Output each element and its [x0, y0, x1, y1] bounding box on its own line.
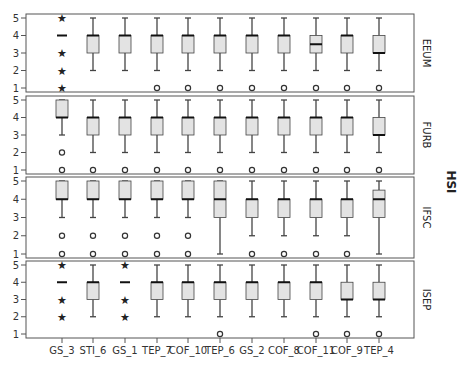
- panels-group: 12345EEUM★★★★12345FURB12345IFSC12345ISEP…: [13, 12, 432, 340]
- y-tick-label: 2: [13, 311, 19, 322]
- panel-label: ISEP: [421, 289, 432, 311]
- extreme-star-icon: ★: [57, 82, 67, 95]
- iqr-box: [278, 199, 290, 217]
- x-tick-label: GS_2: [239, 345, 264, 357]
- extreme-star-icon: ★: [57, 311, 67, 324]
- iqr-box: [246, 199, 258, 217]
- iqr-box: [341, 118, 353, 136]
- y-tick-label: 5: [13, 260, 19, 271]
- x-tick-label: GS_3: [49, 345, 74, 357]
- y-tick-label: 3: [13, 212, 19, 223]
- iqr-box: [87, 118, 99, 136]
- extreme-star-icon: ★: [120, 259, 130, 272]
- iqr-box: [310, 118, 322, 136]
- iqr-box: [56, 181, 68, 199]
- y-tick-label: 4: [13, 112, 19, 123]
- iqr-box: [182, 118, 194, 136]
- iqr-box: [151, 181, 163, 199]
- iqr-box: [373, 190, 385, 217]
- x-tick-label: COF_9: [331, 345, 363, 357]
- y-tick-label: 3: [13, 130, 19, 141]
- boxplot-chart: 12345EEUM★★★★12345FURB12345IFSC12345ISEP…: [0, 0, 462, 365]
- y-tick-label: 5: [13, 176, 19, 187]
- iqr-box: [246, 118, 258, 136]
- panel-ifsc: 12345IFSC: [13, 176, 432, 260]
- iqr-box: [278, 118, 290, 136]
- panel-eeum: 12345EEUM★★★★: [13, 12, 432, 95]
- panel-isep: 12345ISEP★★★★★★: [13, 259, 432, 340]
- x-axis: GS_3STI_6GS_1TEP_7COF_10TEP_6GS_2COF_8CO…: [49, 338, 394, 357]
- y-tick-label: 2: [13, 65, 19, 76]
- iqr-box: [341, 36, 353, 54]
- panel-label: IFSC: [421, 207, 432, 229]
- iqr-box: [214, 36, 226, 54]
- iqr-box: [119, 181, 131, 199]
- iqr-box: [341, 282, 353, 299]
- iqr-box: [87, 282, 99, 299]
- y-tick-label: 1: [13, 83, 19, 94]
- iqr-box: [278, 282, 290, 299]
- y-tick-label: 4: [13, 277, 19, 288]
- extreme-star-icon: ★: [57, 259, 67, 272]
- iqr-box: [310, 199, 322, 217]
- extreme-star-icon: ★: [120, 294, 130, 307]
- y-tick-label: 1: [13, 165, 19, 176]
- y-tick-label: 3: [13, 48, 19, 59]
- panel-label: EEUM: [421, 39, 432, 68]
- x-tick-label: COF_10: [169, 345, 207, 357]
- iqr-box: [214, 282, 226, 299]
- iqr-box: [278, 36, 290, 54]
- iqr-box: [87, 181, 99, 199]
- iqr-box: [373, 36, 385, 54]
- iqr-box: [214, 118, 226, 136]
- iqr-box: [182, 282, 194, 299]
- x-tick-label: TEP_6: [204, 345, 235, 357]
- x-tick-label: STI_6: [80, 345, 107, 357]
- y-tick-label: 4: [13, 30, 19, 41]
- iqr-box: [151, 118, 163, 136]
- iqr-box: [182, 36, 194, 54]
- extreme-star-icon: ★: [120, 311, 130, 324]
- iqr-box: [119, 118, 131, 136]
- iqr-box: [151, 282, 163, 299]
- x-tick-label: TEP_7: [141, 345, 172, 357]
- extreme-star-icon: ★: [57, 65, 67, 78]
- x-tick-label: COF_11: [297, 345, 335, 357]
- y-tick-label: 3: [13, 294, 19, 305]
- iqr-box: [56, 100, 68, 118]
- x-tick-label: GS_1: [112, 345, 137, 357]
- x-tick-label: COF_8: [268, 345, 300, 357]
- extreme-star-icon: ★: [57, 294, 67, 307]
- iqr-box: [373, 118, 385, 136]
- panel-furb: 12345FURB: [13, 95, 432, 176]
- y-axis-title: HSI: [444, 170, 458, 193]
- iqr-box: [246, 282, 258, 299]
- panel-label: FURB: [421, 122, 432, 149]
- iqr-box: [182, 181, 194, 199]
- box-gs_3: ★★★★: [57, 12, 67, 95]
- iqr-box: [246, 36, 258, 54]
- y-tick-label: 4: [13, 194, 19, 205]
- iqr-box: [373, 282, 385, 299]
- iqr-box: [119, 36, 131, 54]
- extreme-star-icon: ★: [57, 12, 67, 25]
- y-tick-label: 1: [13, 249, 19, 260]
- x-tick-label: TEP_4: [363, 345, 394, 357]
- y-tick-label: 1: [13, 329, 19, 340]
- y-tick-label: 2: [13, 230, 19, 241]
- iqr-box: [341, 199, 353, 217]
- extreme-star-icon: ★: [57, 47, 67, 60]
- y-tick-label: 5: [13, 95, 19, 106]
- y-tick-label: 5: [13, 13, 19, 24]
- iqr-box: [310, 282, 322, 299]
- iqr-box: [151, 36, 163, 54]
- iqr-box: [87, 36, 99, 54]
- y-tick-label: 2: [13, 147, 19, 158]
